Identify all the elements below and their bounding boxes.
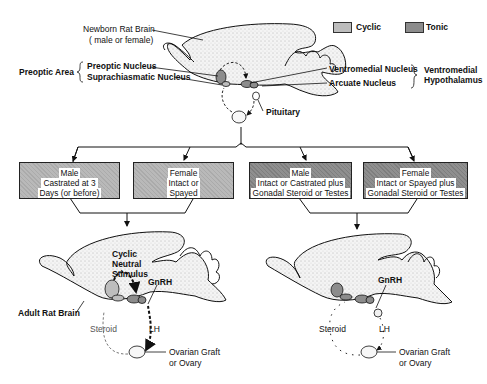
condition-box-male-steroid: Male Intact or Castrated plus Gonadal St… bbox=[249, 162, 352, 199]
right-lh-label: LH bbox=[379, 324, 390, 334]
preoptic-nucleus-label: Preoptic Nucleus bbox=[87, 61, 156, 71]
right-adult-brain bbox=[266, 234, 452, 358]
left-gnrh-label: GnRH bbox=[148, 277, 172, 287]
preoptic-brace bbox=[77, 62, 83, 82]
box-line: Male bbox=[290, 168, 312, 178]
box-line: Female bbox=[168, 168, 200, 178]
ventromedial-nucleus-label: Ventromedial Nucleus bbox=[329, 64, 418, 74]
newborn-brain-sublabel: ( male or female) bbox=[89, 35, 153, 45]
box-line: Spayed bbox=[167, 188, 199, 198]
box-line: Castrated at 3 bbox=[41, 178, 97, 188]
stimulus-label-line3: Stimulus bbox=[112, 269, 148, 279]
left-lh-label: LH bbox=[149, 324, 160, 334]
left-ovary-label-line1: Ovarian Graft bbox=[169, 347, 220, 357]
right-ovary-label-line1: Ovarian Graft bbox=[399, 347, 450, 357]
box-to-brain-connectors bbox=[70, 198, 417, 229]
suprachiasmatic-nucleus-label: Suprachiasmatic Nucleus bbox=[87, 72, 190, 82]
legend-swatch-tonic bbox=[405, 22, 424, 33]
condition-box-female-intact: Female Intact or Spayed bbox=[133, 162, 234, 199]
box-line: Intact or bbox=[167, 178, 201, 188]
adult-rat-brain-label: Adult Rat Brain bbox=[18, 308, 80, 318]
condition-box-female-steroid: Female Intact or Spayed plus Gonadal Ste… bbox=[363, 162, 468, 199]
right-gnrh-label: GnRH bbox=[378, 275, 402, 285]
box-line: Intact or Castrated plus bbox=[256, 178, 346, 188]
stimulus-label-line1: Cyclic bbox=[112, 249, 137, 259]
box-line: Days (or before) bbox=[38, 188, 102, 198]
box-line: Female bbox=[400, 168, 432, 178]
box-line: Gonadal Steroid or Testes bbox=[251, 188, 351, 198]
legend-swatch-cyclic bbox=[333, 22, 352, 33]
left-ovary-label-line2: or Ovary bbox=[169, 358, 202, 368]
right-steroid-label: Steroid bbox=[319, 324, 346, 334]
legend-label-tonic: Tonic bbox=[426, 22, 448, 32]
branch-connector bbox=[73, 127, 414, 162]
box-line: Male bbox=[59, 168, 81, 178]
legend-label-cyclic: Cyclic bbox=[356, 22, 381, 32]
pituitary-label: Pituitary bbox=[266, 107, 300, 117]
preoptic-area-label: Preoptic Area bbox=[19, 67, 74, 77]
stimulus-label-line2: Neutral bbox=[112, 259, 141, 269]
newborn-brain-label: Newborn Rat Brain bbox=[83, 24, 155, 34]
box-line: Intact or Spayed plus bbox=[375, 178, 457, 188]
vmh-label-line2: Hypothalamus bbox=[424, 75, 483, 85]
left-steroid-label: Steroid bbox=[90, 324, 117, 334]
arcuate-nucleus-label: Arcuate Nucleus bbox=[329, 78, 396, 88]
right-ovary-label-line2: or Ovary bbox=[399, 358, 432, 368]
condition-box-male-castrated: Male Castrated at 3 Days (or before) bbox=[19, 162, 120, 199]
vmh-label-line1: Ventromedial bbox=[424, 65, 477, 75]
box-line: Gonadal Steroid or Testes bbox=[366, 188, 466, 198]
